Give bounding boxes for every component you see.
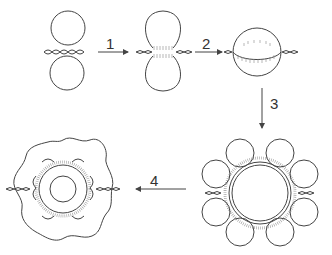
step-1-label: 1 [106,36,114,51]
step-3-label: 3 [270,96,278,111]
step-2-label: 2 [202,36,210,51]
step-4-label: 4 [150,173,158,188]
stage-d [202,139,318,246]
diagram-figure [0,0,332,255]
diagram-canvas: 1 2 3 4 [0,0,332,255]
stage-c [224,28,298,76]
stage-b [136,11,192,91]
stage-a [44,11,85,90]
stage-e [6,138,120,240]
